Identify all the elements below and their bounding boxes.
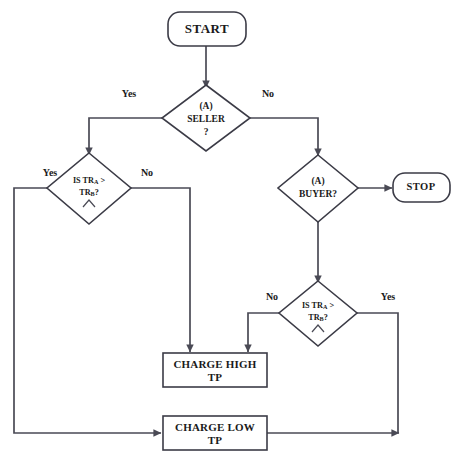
connector-right-yes-to-charge-low bbox=[356, 313, 398, 433]
buyer-label-line1: (A) bbox=[311, 176, 324, 187]
edge-label-seller-no: No bbox=[262, 88, 274, 99]
compare-right-line2-b: ? bbox=[324, 313, 328, 322]
compare-left-line2: TRB? bbox=[79, 188, 99, 198]
connector-right-no-to-charge-high bbox=[248, 313, 280, 352]
flowchart-svg: START STOP (A) SELLER ? (A) BUYER? IS TR… bbox=[0, 0, 455, 468]
edge-label-left-no: No bbox=[141, 167, 153, 178]
compare-right-line2-a: TR bbox=[308, 313, 319, 322]
compare-left-line1: IS TRA > bbox=[73, 176, 106, 186]
edge-label-seller-yes: Yes bbox=[122, 88, 137, 99]
charge-low-tp-line1: CHARGE LOW bbox=[175, 421, 255, 433]
seller-label-line3: ? bbox=[204, 127, 209, 137]
compare-right-line1-b: > bbox=[327, 301, 334, 310]
compare-left-line1-b: > bbox=[98, 176, 105, 185]
connector-left-yes-to-charge-low bbox=[14, 188, 161, 433]
edge-label-left-yes: Yes bbox=[43, 167, 58, 178]
compare-left-line2-a: TR bbox=[79, 188, 90, 197]
charge-low-tp-line2: TP bbox=[208, 434, 223, 446]
connector-seller-yes-to-compare-left bbox=[89, 118, 163, 155]
connector-left-no-to-charge-high bbox=[130, 188, 190, 352]
connector-seller-no-to-buyer bbox=[249, 118, 318, 156]
compare-right-line1-a: IS TR bbox=[302, 301, 323, 310]
stop-label: STOP bbox=[406, 181, 435, 192]
charge-high-tp-line2: TP bbox=[208, 371, 223, 383]
start-label: START bbox=[185, 21, 229, 36]
seller-label-line2: SELLER bbox=[187, 114, 225, 124]
flowchart-canvas: START STOP (A) SELLER ? (A) BUYER? IS TR… bbox=[0, 0, 455, 468]
charge-high-tp-line1: CHARGE HIGH bbox=[173, 358, 256, 370]
buyer-label-line2: BUYER? bbox=[299, 189, 337, 199]
edge-label-right-no: No bbox=[266, 291, 278, 302]
compare-right-line2: TRB? bbox=[308, 313, 328, 323]
edge-label-right-yes: Yes bbox=[381, 291, 396, 302]
seller-label-line1: (A) bbox=[199, 101, 212, 112]
compare-left-line2-b: ? bbox=[95, 188, 99, 197]
compare-left-line1-a: IS TR bbox=[73, 176, 94, 185]
compare-right-line1: IS TRA > bbox=[302, 301, 335, 311]
